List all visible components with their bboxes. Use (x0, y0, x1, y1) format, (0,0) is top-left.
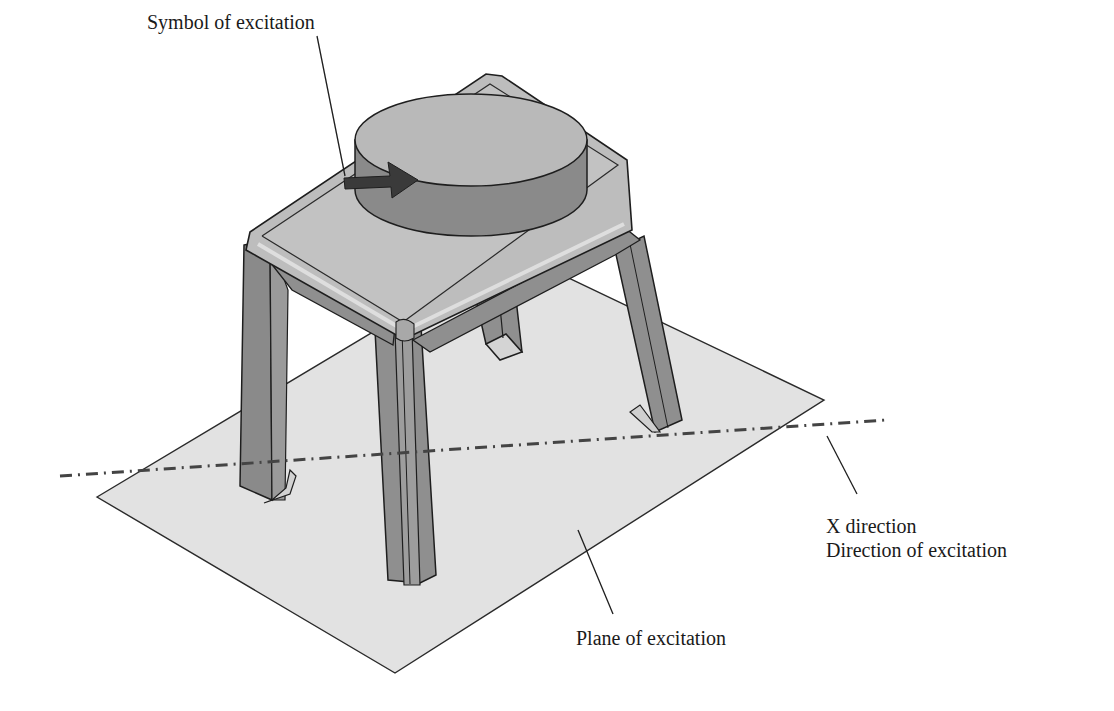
label-x-direction-line2: Direction of excitation (826, 538, 1007, 562)
diagram-stage: Symbol of excitation X direction Directi… (0, 0, 1114, 711)
structure-drawing (0, 0, 1114, 711)
label-x-direction-line1: X direction (826, 514, 1007, 538)
excitation-plane (97, 250, 824, 673)
label-plane-of-excitation: Plane of excitation (576, 626, 726, 650)
leader-x-direction (827, 436, 857, 494)
leader-symbol (317, 36, 345, 176)
label-x-direction: X direction Direction of excitation (826, 514, 1007, 562)
label-symbol-of-excitation: Symbol of excitation (147, 10, 315, 34)
